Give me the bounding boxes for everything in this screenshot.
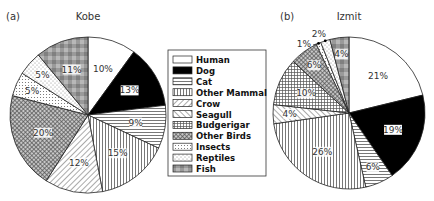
- slice-label-kobe-human: 10%: [93, 64, 113, 74]
- legend-label-crow: Crow: [196, 99, 220, 109]
- legend-swatch-other-mammal: [173, 89, 192, 96]
- chart-title-izmit: Izmit: [337, 11, 362, 22]
- slice-label-kobe-fish: 11%: [62, 65, 82, 75]
- pie-kobe: 10%13%9%15%12%20%5%5%11%: [10, 37, 166, 193]
- legend-swatch-fish: [173, 165, 192, 172]
- slice-label-kobe-insects: 5%: [25, 86, 40, 96]
- legend-swatch-other-birds: [173, 132, 192, 139]
- chart-title-kobe: Kobe: [76, 11, 101, 22]
- legend-swatch-dog: [173, 67, 192, 74]
- legend-label-dog: Dog: [196, 66, 215, 76]
- pie-izmit: 21%19%6%26%4%10%6%1%2%4%: [273, 29, 425, 189]
- legend-label-reptiles: Reptiles: [196, 153, 235, 163]
- legend-label-other-mammal: Other Mammal: [196, 88, 267, 98]
- slice-label-izmit-fish: 4%: [334, 49, 349, 59]
- callout-arrowhead-reptiles: [324, 39, 327, 42]
- legend-swatch-reptiles: [173, 154, 192, 161]
- chart-figure: (a) Kobe (b) Izmit 10%13%9%15%12%20%5%5%…: [0, 0, 434, 201]
- panel-label-a: (a): [6, 11, 20, 22]
- legend: HumanDogCatOther MammalCrowSeagullBudger…: [168, 50, 267, 176]
- slice-label-kobe-reptiles: 5%: [35, 70, 50, 80]
- slice-label-izmit-seagull: 4%: [283, 109, 298, 119]
- legend-swatch-insects: [173, 143, 192, 150]
- slice-label-kobe-other-birds: 20%: [33, 128, 53, 138]
- legend-label-other-birds: Other Birds: [196, 131, 251, 141]
- legend-label-seagull: Seagull: [196, 110, 232, 120]
- legend-swatch-human: [173, 56, 192, 63]
- slice-label-izmit-other-birds: 6%: [307, 60, 322, 70]
- legend-swatch-cat: [173, 78, 192, 85]
- slice-label-izmit-other-mammal: 26%: [312, 147, 332, 157]
- slice-label-izmit-human: 21%: [368, 71, 388, 81]
- slice-label-kobe-crow: 12%: [69, 158, 89, 168]
- legend-label-human: Human: [196, 55, 230, 65]
- slice-label-izmit-insects: 1%: [297, 39, 312, 49]
- callout-arrowhead-insects: [317, 42, 320, 45]
- legend-label-fish: Fish: [196, 164, 216, 174]
- slice-label-kobe-other-mammal: 15%: [108, 148, 128, 158]
- legend-swatch-seagull: [173, 111, 192, 118]
- slice-label-izmit-dog: 19%: [383, 125, 403, 135]
- legend-label-cat: Cat: [196, 77, 212, 87]
- legend-label-insects: Insects: [196, 142, 230, 152]
- slice-label-kobe-cat: 9%: [129, 118, 144, 128]
- slice-label-izmit-reptiles: 2%: [312, 29, 327, 39]
- panel-label-b: (b): [280, 11, 294, 22]
- legend-label-budgerigar: Budgerigar: [196, 120, 250, 130]
- slice-label-izmit-cat: 6%: [366, 162, 381, 172]
- slice-label-izmit-budgerigar: 10%: [296, 88, 316, 98]
- slice-label-kobe-dog: 13%: [120, 85, 140, 95]
- legend-swatch-budgerigar: [173, 121, 192, 128]
- legend-swatch-crow: [173, 100, 192, 107]
